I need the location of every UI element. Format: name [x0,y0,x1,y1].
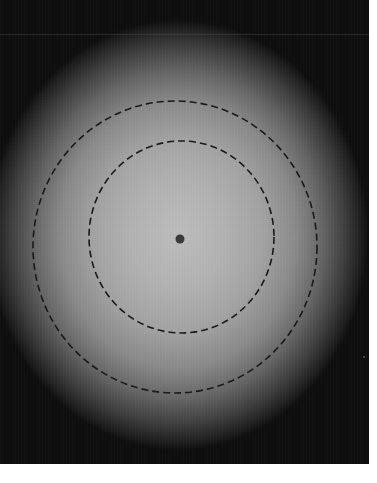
figure-canvas [0,0,377,483]
outer-dashed-contour [33,101,317,393]
contour-overlay [0,0,369,464]
brightness-image [0,0,369,464]
artifact-speck [363,356,365,358]
center-dot-marker [176,235,185,244]
